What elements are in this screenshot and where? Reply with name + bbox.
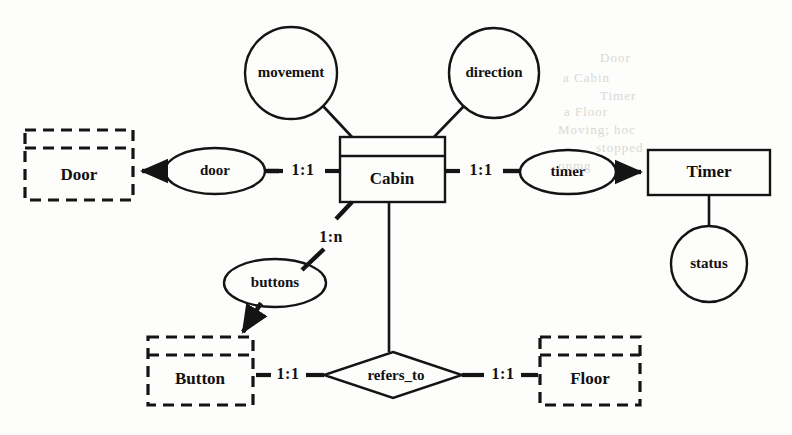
entity-timer[interactable]: Timer [648,150,770,195]
cardinality-timer: 1:1 [470,161,493,178]
entity-floor[interactable]: Floor [540,337,640,405]
entity-cabin[interactable]: Cabin [340,137,445,202]
attribute-movement-label: movement [258,64,325,80]
entity-timer-label: Timer [686,162,731,181]
attribute-status[interactable]: status [671,226,747,302]
attribute-direction-label: direction [465,64,523,80]
cardinality-button: 1:1 [277,365,300,382]
entity-door-label: Door [61,165,98,184]
er-diagram-svg: Door Cabin Timer Button Floor mov [0,0,792,435]
relationship-timer[interactable]: timer [520,150,616,194]
entity-button-label: Button [175,369,226,388]
relationship-refers-to-label: refers_to [367,367,424,383]
cardinality-floor: 1:1 [492,365,515,382]
edge-buttons-to-entity [243,303,261,332]
relationship-door[interactable]: door [165,148,265,194]
relationship-door-label: door [200,162,230,178]
cardinality-door: 1:1 [292,161,315,178]
edge-direction-cabin [434,106,464,137]
relationship-buttons-label: buttons [251,274,300,290]
relationship-refers-to[interactable]: refers_to [324,352,462,398]
attribute-movement[interactable]: movement [245,27,337,119]
relationship-timer-label: timer [551,163,586,179]
cardinality-buttons: 1:n [319,228,343,245]
attribute-direction[interactable]: direction [449,28,539,118]
er-diagram-canvas: Door Cabin Timer Button Floor mov [0,0,792,435]
entity-door[interactable]: Door [25,130,133,200]
entity-cabin-label: Cabin [370,169,415,188]
edge-movement-cabin [323,106,352,137]
entity-floor-label: Floor [570,369,610,388]
attribute-status-label: status [690,255,728,271]
edge-cabin-buttons-upper [336,202,352,219]
relationship-buttons[interactable]: buttons [224,259,326,307]
entity-button[interactable]: Button [148,337,253,405]
